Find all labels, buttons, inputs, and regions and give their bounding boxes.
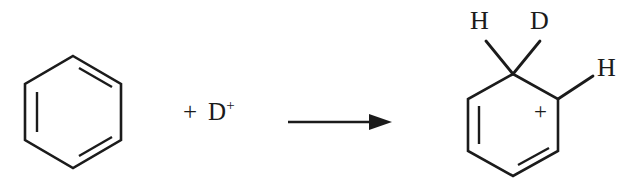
arenium-charge-label: +	[534, 100, 547, 123]
atom-label-d: D	[530, 8, 549, 34]
atom-label-h-right: H	[597, 55, 616, 81]
bond-to-d	[513, 41, 540, 74]
bond-to-h-right	[558, 76, 593, 99]
arenium-ring-outline	[468, 74, 558, 176]
reaction-scheme: +D+ H D H +	[0, 0, 638, 190]
arenium-double-bond-lower-right	[518, 148, 549, 165]
atom-label-h-left: H	[470, 8, 489, 34]
bond-to-h-left	[486, 41, 513, 74]
